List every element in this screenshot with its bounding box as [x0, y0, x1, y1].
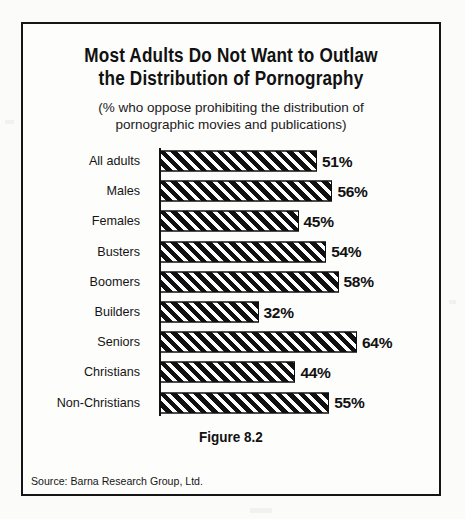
figure-frame: Most Adults Do Not Want to Outlaw the Di… — [21, 22, 441, 496]
chart-subtitle: (% who oppose prohibiting the distributi… — [23, 99, 439, 133]
scan-speckle — [5, 120, 14, 124]
category-label: Busters — [23, 245, 140, 259]
bar-container: 44% — [160, 362, 295, 383]
chart-title-line-1: Most Adults Do Not Want to Outlaw — [48, 44, 414, 67]
bar — [160, 211, 299, 232]
bar-value-label: 32% — [264, 303, 294, 321]
chart-row: Females45% — [23, 206, 439, 236]
category-label: Boomers — [23, 275, 140, 289]
category-label: Christians — [23, 365, 140, 379]
bar-value-label: 51% — [322, 152, 352, 170]
bar-container: 32% — [160, 302, 259, 323]
bar-chart-plot: All adults51%Males56%Females45%Busters54… — [23, 146, 439, 418]
bar-value-label: 55% — [334, 394, 364, 412]
bar-container: 58% — [160, 271, 339, 292]
category-label: Seniors — [23, 335, 140, 349]
figure-caption: Figure 8.2 — [44, 428, 418, 445]
category-label: Females — [23, 214, 140, 228]
source-note: Source: Barna Research Group, Ltd. — [31, 475, 203, 487]
chart-title-line-2: the Distribution of Pornography — [48, 67, 414, 90]
chart-title: Most Adults Do Not Want to Outlaw the Di… — [23, 44, 439, 90]
category-label: Builders — [23, 305, 140, 319]
bar-value-label: 44% — [300, 363, 330, 381]
bar — [160, 392, 329, 413]
category-label: All adults — [23, 154, 140, 168]
bar — [160, 181, 332, 202]
bar — [160, 362, 295, 383]
category-label: Males — [23, 184, 140, 198]
bar-container: 55% — [160, 392, 329, 413]
chart-subtitle-line-2: pornographic movies and publications) — [23, 116, 439, 133]
bar-value-label: 64% — [362, 333, 392, 351]
bar-value-label: 45% — [304, 212, 334, 230]
scan-speckle — [250, 508, 272, 513]
chart-row: Males56% — [23, 176, 439, 206]
bar-container: 51% — [160, 151, 317, 172]
category-label: Non-Christians — [23, 396, 140, 410]
bar — [160, 302, 259, 323]
bar — [160, 332, 357, 353]
bar — [160, 271, 339, 292]
bar-container: 45% — [160, 211, 299, 232]
figure-page: Most Adults Do Not Want to Outlaw the Di… — [0, 0, 465, 519]
bar-container: 54% — [160, 241, 326, 262]
chart-row: All adults51% — [23, 146, 439, 176]
chart-row: Boomers58% — [23, 267, 439, 297]
chart-row: Non-Christians55% — [23, 388, 439, 418]
bar — [160, 151, 317, 172]
bar — [160, 241, 326, 262]
bar-container: 56% — [160, 181, 332, 202]
chart-row: Builders32% — [23, 297, 439, 327]
scan-speckle — [449, 300, 456, 304]
bar-value-label: 54% — [331, 243, 361, 261]
bar-value-label: 58% — [344, 273, 374, 291]
bar-container: 64% — [160, 332, 357, 353]
chart-subtitle-line-1: (% who oppose prohibiting the distributi… — [23, 99, 439, 116]
bar-value-label: 56% — [337, 182, 367, 200]
chart-row: Seniors64% — [23, 327, 439, 357]
chart-row: Christians44% — [23, 357, 439, 387]
chart-row: Busters54% — [23, 237, 439, 267]
